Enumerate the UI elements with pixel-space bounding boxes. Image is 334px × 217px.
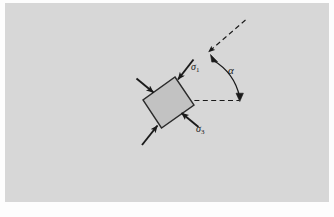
figure-root: σ1 σ3 α	[0, 0, 334, 217]
sigma1-arrow-lower	[142, 126, 158, 146]
sigma3-arrow-left	[137, 79, 154, 93]
rock-specimen-group	[143, 77, 194, 128]
labels-group: σ1 σ3 α	[191, 61, 234, 136]
alpha-angle-arc	[214, 61, 240, 97]
rock-specimen-rectangle	[143, 77, 194, 128]
sigma1-label: σ1	[191, 61, 200, 74]
alpha-label: α	[228, 64, 234, 76]
sigma3-label: σ3	[196, 123, 205, 136]
alpha-arc-arrowhead-upper	[211, 54, 218, 63]
alpha-angle-arc-group	[211, 54, 244, 102]
inclined-reference-dashed-line	[209, 20, 246, 52]
stress-element-diagram-svg: σ1 σ3 α	[0, 0, 334, 217]
